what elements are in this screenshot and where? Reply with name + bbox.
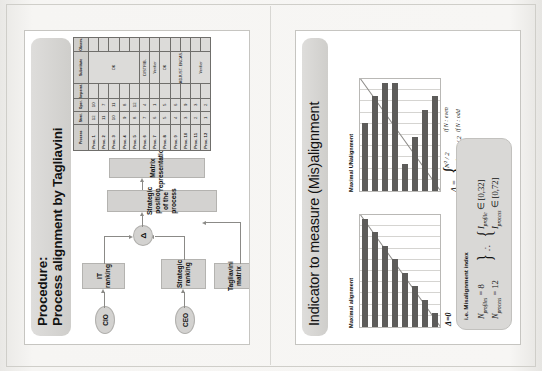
th-oper: Oper. xyxy=(74,98,89,111)
cell-process-name: Proc. 3 xyxy=(109,124,119,150)
cell-observation xyxy=(191,38,201,52)
bar xyxy=(382,83,388,191)
chart2-caption: Maximal UNalignment xyxy=(348,134,354,192)
cell-process-name: Proc. 6 xyxy=(140,124,150,150)
slide-title-line1: Procedure: xyxy=(36,48,51,326)
chart-maximal-unalignment: Maximal UNalignment Δ = { N² / 2 if N : … xyxy=(348,42,468,192)
slide-title-bar-right: Indicator to measure (Mis)alignment xyxy=(302,38,328,336)
line-tagliavini-up xyxy=(205,222,240,223)
line-strategic-join xyxy=(184,236,185,260)
bar xyxy=(432,97,438,192)
th-substitute: Substitute xyxy=(74,51,89,83)
cell-strategic-rank: 6 xyxy=(150,111,160,124)
cell-process-name: Proc. 1 xyxy=(89,124,99,150)
cell-imperative xyxy=(99,84,109,99)
cell-strategic-rank: 11 xyxy=(99,111,109,124)
cell-process-name: Proc. 8 xyxy=(160,124,170,150)
page-edge-left xyxy=(6,4,7,367)
cell-strategic-rank: 1 xyxy=(201,111,211,124)
cell-imperative xyxy=(201,84,211,99)
bar xyxy=(422,110,428,191)
cell-imperative xyxy=(129,84,139,99)
cell-strategic-rank: 10 xyxy=(109,111,119,124)
cell-strategic-rank: 4 xyxy=(170,111,180,124)
node-cio: CIO xyxy=(95,306,115,334)
cell-observation xyxy=(160,38,170,52)
cell-imperative xyxy=(180,84,190,99)
bar xyxy=(432,314,438,328)
cell-imperative xyxy=(109,84,119,99)
cell-strategic-rank: 5 xyxy=(160,111,170,124)
th-process: Process xyxy=(74,124,89,150)
slide-title-bar-left: Procedure: Process alignment by Tagliavi… xyxy=(31,38,71,336)
table-row: Proc. 946ADJUST. ENCAS. xyxy=(170,38,180,151)
cell-observation xyxy=(99,38,109,52)
cell-substitute: Verifier xyxy=(150,51,160,83)
cell-operational-rank: 1 xyxy=(150,98,160,111)
bar xyxy=(412,287,418,328)
arrow-delta xyxy=(140,212,144,216)
n-process-equation: Nprocess = 12 xyxy=(490,280,502,319)
node-ceo: CEO xyxy=(175,306,195,334)
line-it-join xyxy=(104,236,105,264)
cell-process-name: Proc. 11 xyxy=(191,124,201,150)
th-imperat: Imperat. xyxy=(74,84,89,99)
cell-operational-rank: 6 xyxy=(170,98,180,111)
cell-operational-rank: 5 xyxy=(160,98,170,111)
cell-process-name: Proc. 4 xyxy=(119,124,129,150)
cell-observation xyxy=(201,38,211,52)
flowchart: CEO CIO Strategic ranking IT ranking xyxy=(79,158,245,338)
cell-substitute: OK xyxy=(89,51,140,83)
cell-operational-rank: 3 xyxy=(191,98,201,111)
cell-substitute: DISTRIB. xyxy=(140,51,150,83)
cell-strategic-rank: 2 xyxy=(191,111,201,124)
cell-process-name: Proc. 2 xyxy=(99,124,109,150)
n-profile-equation: Nprofiles = 8 xyxy=(476,284,488,319)
bar xyxy=(372,97,378,192)
cell-observation xyxy=(119,38,129,52)
gridline xyxy=(360,89,440,90)
cell-process-name: Proc. 5 xyxy=(129,124,139,150)
line-strategic-up xyxy=(155,236,184,237)
table-row: Proc. 11210OK xyxy=(89,38,99,151)
slide-process-alignment: Procedure: Process alignment by Tagliavi… xyxy=(24,30,250,345)
delta-zero-annotation: Δ=0 xyxy=(444,312,453,326)
chart1-caption: Maximal alignment xyxy=(348,278,354,328)
formula-case1-cond: if N : even xyxy=(443,107,449,132)
cell-imperative xyxy=(140,84,150,99)
bar xyxy=(392,83,398,191)
table-header-row: Process Strat. Oper. Imperat. Substitute… xyxy=(74,38,89,151)
table-row: Proc. 761Verifier xyxy=(150,38,160,151)
bar xyxy=(402,164,408,191)
chart2-plot-area xyxy=(359,78,441,192)
table-row: Proc. 1123Verifier xyxy=(191,38,201,151)
arrow-position xyxy=(140,178,144,182)
table-row: Proc. 674DISTRIB. xyxy=(140,38,150,151)
cell-observation xyxy=(109,38,119,52)
cell-observation xyxy=(180,38,190,52)
cell-imperative xyxy=(150,84,160,99)
node-it-ranking: IT ranking xyxy=(82,263,125,289)
node-tagliavini-matrix: Tagliavini matrix xyxy=(214,263,250,289)
process-table: Process Strat. Oper. Imperat. Substitute… xyxy=(73,37,211,151)
formula-case1-value: N² / 2 xyxy=(443,152,451,168)
bar xyxy=(382,246,388,327)
cell-operational-rank: 12 xyxy=(129,98,139,111)
line-cio-to-it xyxy=(104,292,105,308)
cell-strategic-rank: 3 xyxy=(180,111,190,124)
cell-strategic-rank: 8 xyxy=(129,111,139,124)
page-edge-right xyxy=(535,4,536,367)
cell-observation xyxy=(140,38,150,52)
slide-misalignment-indicator: Indicator to measure (Mis)alignment Maxi… xyxy=(295,30,521,345)
arrow-ceo xyxy=(181,289,185,293)
cell-operational-rank: 7 xyxy=(99,98,109,111)
node-strategic-position: Strategic position of the process xyxy=(107,190,217,212)
cell-operational-rank: 10 xyxy=(89,98,99,111)
arrow-cio xyxy=(101,289,105,293)
cell-strategic-rank: 9 xyxy=(119,111,129,124)
cell-imperative xyxy=(170,84,180,99)
cell-imperative xyxy=(191,84,201,99)
cell-process-name: Proc. 12 xyxy=(201,124,211,150)
cell-operational-rank: 9 xyxy=(180,98,190,111)
node-matrix-representation: Matrix representation xyxy=(109,158,205,178)
